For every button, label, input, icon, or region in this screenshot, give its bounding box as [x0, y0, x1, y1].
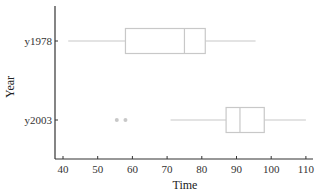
iqr-box: [125, 29, 205, 54]
y-tick-label: y2003: [25, 114, 53, 126]
y-axis-title: Year: [3, 76, 17, 98]
box-y2003: [115, 108, 306, 133]
axes: 405060708090100110y1978y2003: [25, 6, 315, 175]
x-tick-label: 80: [196, 163, 208, 175]
iqr-box: [226, 108, 264, 133]
outlier-point: [115, 118, 119, 122]
plot-area: [68, 29, 306, 133]
x-tick-label: 100: [263, 163, 280, 175]
outlier-point: [123, 118, 127, 122]
x-tick-label: 40: [58, 163, 70, 175]
x-tick-label: 90: [231, 163, 243, 175]
x-tick-label: 110: [298, 163, 315, 175]
x-tick-label: 50: [92, 163, 104, 175]
x-axis-title: Time: [173, 178, 198, 192]
x-tick-label: 70: [162, 163, 174, 175]
box-y1978: [68, 29, 255, 54]
boxplot-chart: 405060708090100110y1978y2003 Time Year: [0, 0, 323, 196]
y-tick-label: y1978: [25, 35, 53, 47]
x-tick-label: 60: [127, 163, 139, 175]
